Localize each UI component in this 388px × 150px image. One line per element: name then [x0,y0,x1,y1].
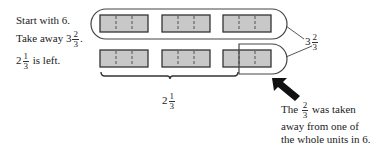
unit-bar [100,50,148,67]
top-row-units [100,15,271,32]
explanation-note: The 23 was taken away from one of the wh… [281,101,371,146]
note-line-3: the whole units in 6. [281,133,371,146]
unit-bar [223,15,271,32]
remaining-amount-label: 213 [162,92,176,111]
bottom-row-units [100,50,271,67]
note-line-2: away from one of [281,120,371,133]
unit-bar [162,50,210,67]
pointer-arrow-icon [272,78,300,101]
unit-bar [100,15,148,32]
unit-bar [223,50,271,67]
remaining-brace [101,72,238,79]
unit-bar [162,15,210,32]
taken-amount-label: 323 [305,33,319,52]
note-line-1: The 23 was taken [281,101,371,120]
leader-line-top [286,26,304,39]
